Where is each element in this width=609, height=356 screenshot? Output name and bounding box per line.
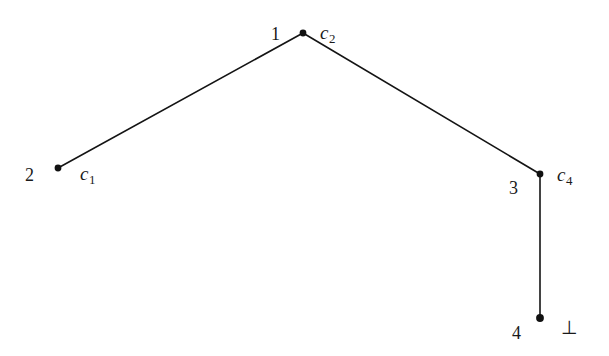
- node-term-label-apex: c2: [320, 23, 335, 42]
- node-index-label-bottom: 4: [512, 324, 521, 342]
- node-term-base-apex: c: [320, 22, 328, 43]
- node-term-sub-apex: 2: [329, 31, 335, 46]
- node-term-sub-right: 4: [566, 173, 572, 188]
- node-dot-bottom: [536, 314, 544, 322]
- node-term-base-left: c: [80, 163, 88, 184]
- node-term-label-left: c1: [80, 164, 95, 183]
- node-dot-left: [55, 165, 62, 172]
- node-index-label-left: 2: [25, 166, 34, 184]
- node-term-label-right: c4: [557, 165, 572, 184]
- node-index-label-apex: 1: [271, 25, 280, 43]
- node-index-label-right: 3: [509, 179, 518, 197]
- node-bottom-symbol-label: ⊥: [561, 318, 578, 337]
- edge-apex-to-right: [303, 33, 540, 174]
- node-term-sub-left: 1: [89, 172, 95, 187]
- diagram-canvas: 1 c2 2 c1 3 c4 4 ⊥: [0, 0, 609, 356]
- edge-apex-to-left: [58, 33, 303, 168]
- node-dot-apex: [300, 30, 307, 37]
- node-dot-right: [537, 171, 544, 178]
- node-term-base-right: c: [557, 164, 565, 185]
